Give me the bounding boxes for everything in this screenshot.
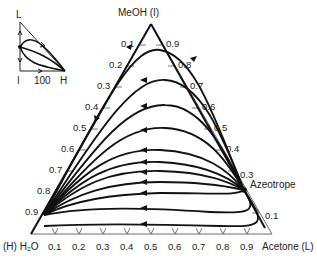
svg-text:0.2: 0.2 xyxy=(109,59,122,70)
svg-text:0.9: 0.9 xyxy=(166,38,179,49)
ternary-diagram: L I 100 H xyxy=(0,0,317,259)
azeotrope-point xyxy=(241,187,247,193)
svg-text:0.8: 0.8 xyxy=(37,185,50,196)
vertex-label-water: (H) H₂O xyxy=(3,241,39,252)
svg-text:0.9: 0.9 xyxy=(25,206,38,217)
vertex-label-acetone: Acetone (L) xyxy=(262,241,314,252)
svg-text:0.8: 0.8 xyxy=(178,59,191,70)
diagram-canvas: L I 100 H xyxy=(0,0,317,259)
tick-marks xyxy=(43,40,259,234)
svg-text:0.7: 0.7 xyxy=(190,80,203,91)
arrowheads xyxy=(94,44,247,227)
svg-text:0.6: 0.6 xyxy=(168,241,181,252)
svg-text:0.4: 0.4 xyxy=(85,101,98,112)
svg-text:0.5: 0.5 xyxy=(144,241,157,252)
svg-text:0.1: 0.1 xyxy=(265,210,278,221)
svg-text:0.5: 0.5 xyxy=(73,122,86,133)
svg-text:0.4: 0.4 xyxy=(120,241,133,252)
azeotrope-label: Azeotrope xyxy=(250,179,296,190)
inset-label-i: I xyxy=(17,75,20,86)
inset-label-100: 100 xyxy=(34,75,51,86)
inset-diagram: L I 100 H xyxy=(16,9,67,86)
vertex-label-meoh: MeOH (I) xyxy=(118,7,159,18)
inset-label-l: L xyxy=(16,9,22,20)
svg-text:0.1: 0.1 xyxy=(48,241,61,252)
svg-text:0.8: 0.8 xyxy=(216,241,229,252)
inset-label-h: H xyxy=(60,75,67,86)
svg-text:0.1: 0.1 xyxy=(121,38,134,49)
svg-text:0.9: 0.9 xyxy=(240,241,253,252)
svg-text:0.6: 0.6 xyxy=(61,143,74,154)
svg-text:0.5: 0.5 xyxy=(214,122,227,133)
svg-text:0.4: 0.4 xyxy=(226,143,239,154)
svg-text:0.3: 0.3 xyxy=(97,80,110,91)
svg-text:0.7: 0.7 xyxy=(192,241,205,252)
residue-curves xyxy=(31,24,265,234)
svg-text:0.6: 0.6 xyxy=(202,101,215,112)
bottom-edge-labels: 0.1 0.2 0.3 0.4 0.5 0.6 0.7 0.8 0.9 xyxy=(48,241,253,252)
svg-text:0.7: 0.7 xyxy=(49,164,62,175)
svg-text:0.3: 0.3 xyxy=(96,241,109,252)
svg-text:0.2: 0.2 xyxy=(72,241,85,252)
